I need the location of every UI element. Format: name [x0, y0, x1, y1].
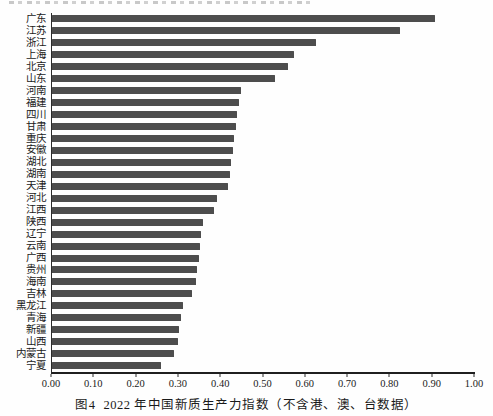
bar-海南	[52, 278, 196, 285]
category-label-7: 福建	[0, 97, 49, 109]
bar-山西	[52, 338, 178, 345]
category-label-14: 天津	[0, 180, 49, 192]
bar-浙江	[52, 39, 316, 46]
figure-caption-text: 2022 年中国新质生产力指数（不含港、澳、台数据）	[104, 398, 418, 412]
category-label-0: 广东	[0, 13, 49, 25]
bar-row-23	[52, 288, 475, 300]
bar-row-10	[52, 133, 475, 145]
category-label-2: 浙江	[0, 37, 49, 49]
category-label-29: 宁夏	[0, 360, 49, 372]
bar-黑龙江	[52, 302, 183, 309]
x-tick-label-0.60: 0.60	[296, 378, 314, 389]
bar-天津	[52, 183, 228, 190]
bar-row-1	[52, 25, 475, 37]
bar-row-9	[52, 121, 475, 133]
x-tick-0.30	[177, 374, 178, 377]
bar-row-24	[52, 300, 475, 312]
bar-row-0	[52, 13, 475, 25]
x-tick-0.50	[262, 374, 263, 377]
x-tick-0.10	[93, 374, 94, 377]
x-tick-label-0.30: 0.30	[169, 378, 187, 389]
x-tick-0.80	[389, 374, 390, 377]
category-label-20: 广西	[0, 252, 49, 264]
category-label-8: 四川	[0, 109, 49, 121]
category-label-15: 河北	[0, 192, 49, 204]
cropped-text-fragment	[9, 1, 312, 4]
bar-row-26	[52, 324, 475, 336]
bar-row-16	[52, 204, 475, 216]
bar-四川	[52, 111, 237, 118]
x-tick-label-0.50: 0.50	[253, 378, 271, 389]
category-label-16: 江西	[0, 204, 49, 216]
bar-山东	[52, 75, 275, 82]
x-tick-label-0.00: 0.00	[42, 378, 60, 389]
category-label-13: 湖南	[0, 168, 49, 180]
category-label-5: 山东	[0, 73, 49, 85]
bar-宁夏	[52, 362, 161, 369]
figure-caption: 图42022 年中国新质生产力指数（不含港、澳、台数据）	[0, 394, 493, 413]
bar-row-3	[52, 49, 475, 61]
category-label-25: 青海	[0, 312, 49, 324]
bar-row-12	[52, 156, 475, 168]
x-tick-label-0.10: 0.10	[84, 378, 102, 389]
bar-新疆	[52, 326, 179, 333]
bar-辽宁	[52, 231, 201, 238]
category-label-19: 云南	[0, 240, 49, 252]
bar-青海	[52, 314, 181, 321]
bar-上海	[52, 51, 294, 58]
x-tick-0.20	[135, 374, 136, 377]
category-label-22: 海南	[0, 276, 49, 288]
x-tick-label-0.70: 0.70	[338, 378, 356, 389]
category-label-27: 山西	[0, 336, 49, 348]
bar-广西	[52, 255, 199, 262]
bar-row-25	[52, 312, 475, 324]
category-label-10: 重庆	[0, 133, 49, 145]
bar-row-6	[52, 85, 475, 97]
bar-安徽	[52, 147, 233, 154]
bar-row-27	[52, 336, 475, 348]
category-label-17: 陕西	[0, 216, 49, 228]
x-axis-tick-labels: 0.000.100.200.300.400.500.600.700.800.90…	[51, 378, 474, 391]
bar-福建	[52, 99, 239, 106]
bar-row-14	[52, 180, 475, 192]
category-label-26: 新疆	[0, 324, 49, 336]
bar-云南	[52, 243, 200, 250]
category-label-28: 内蒙古	[0, 348, 49, 360]
bar-重庆	[52, 135, 234, 142]
bar-chart-plot-area	[51, 13, 475, 374]
x-tick-label-0.90: 0.90	[423, 378, 441, 389]
category-label-6: 河南	[0, 85, 49, 97]
bar-甘肃	[52, 123, 236, 130]
x-tick-label-1.00: 1.00	[465, 378, 483, 389]
x-tick-label-0.20: 0.20	[126, 378, 144, 389]
category-label-21: 贵州	[0, 264, 49, 276]
bar-row-15	[52, 192, 475, 204]
bar-河南	[52, 87, 241, 94]
bar-江苏	[52, 27, 400, 34]
bar-row-20	[52, 252, 475, 264]
category-label-23: 吉林	[0, 288, 49, 300]
bar-row-18	[52, 228, 475, 240]
category-label-4: 北京	[0, 61, 49, 73]
bar-陕西	[52, 219, 203, 226]
y-axis-category-labels: 广东江苏浙江上海北京山东河南福建四川甘肃重庆安徽湖北湖南天津河北江西陕西辽宁云南…	[0, 13, 49, 372]
bar-row-19	[52, 240, 475, 252]
bar-江西	[52, 207, 214, 214]
category-label-3: 上海	[0, 49, 49, 61]
bar-row-28	[52, 348, 475, 360]
figure-number: 图4	[75, 398, 95, 412]
category-label-11: 安徽	[0, 144, 49, 156]
bar-row-21	[52, 264, 475, 276]
bar-row-11	[52, 144, 475, 156]
bar-河北	[52, 195, 217, 202]
category-label-18: 辽宁	[0, 228, 49, 240]
x-tick-1.00	[474, 374, 475, 377]
bar-row-17	[52, 216, 475, 228]
bar-吉林	[52, 290, 192, 297]
bar-row-7	[52, 97, 475, 109]
bar-row-5	[52, 73, 475, 85]
bar-row-8	[52, 109, 475, 121]
category-label-9: 甘肃	[0, 121, 49, 133]
x-tick-0.90	[431, 374, 432, 377]
bar-湖南	[52, 171, 230, 178]
